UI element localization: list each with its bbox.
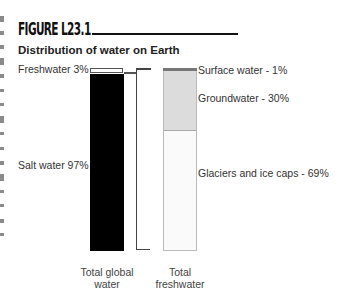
clipped-text-fragment — [0, 103, 4, 106]
label-salt-water: Salt water 97% — [18, 159, 89, 171]
bracket — [136, 68, 150, 250]
bar-segment-surface-water — [163, 68, 197, 71]
clipped-text-fragment — [0, 147, 4, 150]
clipped-text-fragment — [0, 31, 4, 35]
clipped-text-fragment — [0, 233, 4, 236]
clipped-text-fragment — [0, 16, 4, 22]
clipped-text-fragment — [0, 174, 4, 181]
clipped-text-fragment — [0, 161, 4, 165]
category-line: freshwater — [145, 278, 215, 290]
connector-line — [124, 72, 136, 74]
bar-segment-salt-water — [90, 74, 124, 251]
category-line: Total global — [72, 266, 142, 278]
clipped-text-fragment — [0, 190, 4, 193]
category-total-global-water: Total global water — [72, 266, 142, 290]
label-surface-water: Surface water - 1% — [198, 64, 287, 76]
bar-segment-freshwater — [90, 68, 123, 73]
bar-segment-groundwater — [163, 71, 197, 131]
category-line: Total — [145, 266, 215, 278]
clipped-text-fragment — [0, 89, 4, 92]
category-line: water — [72, 278, 142, 290]
clipped-text-fragment — [0, 45, 4, 49]
bracket-top — [136, 68, 151, 70]
figure-rule — [92, 33, 238, 35]
clipped-text-fragment — [0, 132, 4, 135]
clipped-text-fragment — [0, 58, 4, 65]
clipped-text-fragment — [0, 219, 4, 223]
label-groundwater: Groundwater - 30% — [198, 92, 289, 104]
category-total-freshwater: Total freshwater — [145, 266, 215, 290]
label-freshwater: Freshwater 3% — [18, 63, 89, 75]
clipped-text-fragment — [0, 204, 4, 207]
clipped-text-fragment — [0, 116, 4, 123]
figure-label: FIGURE L23.1 — [18, 19, 91, 39]
chart-title: Distribution of water on Earth — [18, 44, 180, 56]
label-glaciers: Glaciers and ice caps - 69% — [198, 167, 329, 179]
clipped-text-fragment — [0, 74, 4, 78]
